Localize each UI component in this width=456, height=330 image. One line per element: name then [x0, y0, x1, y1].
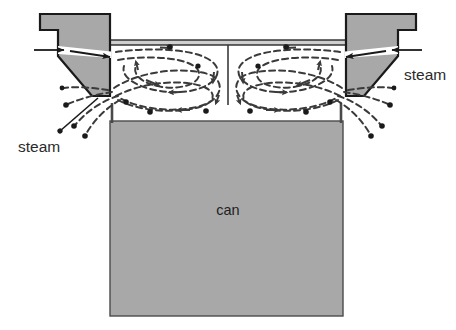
flow-node: [167, 44, 173, 50]
can-label: can: [216, 202, 239, 218]
right-vortex-flow: [236, 49, 342, 110]
flow-node: [247, 108, 253, 114]
plume-node: [63, 102, 69, 108]
flow-node: [147, 109, 153, 115]
can-body: [110, 121, 343, 316]
flow-line: [116, 82, 213, 110]
steam-left-label-group: steam: [18, 98, 98, 155]
plume-node: [387, 102, 393, 108]
flow-arrow: [242, 72, 243, 82]
flow-arrow: [276, 92, 286, 93]
flow-node: [195, 63, 200, 68]
top-plate: [110, 40, 346, 45]
plume-node: [368, 133, 374, 139]
plume-node: [60, 86, 65, 91]
plume-node: [71, 123, 77, 129]
can-group: can: [110, 103, 343, 316]
steam-right-label: steam: [404, 66, 446, 83]
flow-node: [283, 44, 289, 50]
flow-node: [327, 99, 333, 105]
flow-node: [303, 109, 309, 115]
left-plume-markers: [60, 86, 88, 139]
flow-node: [203, 108, 209, 114]
diagram-canvas: can: [0, 0, 456, 330]
steam-can-diagram: can: [0, 0, 456, 330]
steam-right-label-group: steam: [404, 66, 446, 83]
flow-arrow: [213, 72, 214, 82]
flow-arrow: [318, 62, 320, 70]
flow-arrow: [170, 92, 180, 93]
plume-node: [82, 133, 88, 139]
plume-node: [379, 123, 385, 129]
steam-left-label: steam: [18, 138, 60, 155]
plume-node: [392, 86, 397, 91]
flow-node: [255, 63, 260, 68]
flow-line: [243, 82, 340, 110]
left-vortex-flow: [114, 49, 220, 110]
flow-arrow: [136, 62, 138, 70]
flow-node: [123, 99, 129, 105]
right-plume-markers: [368, 86, 396, 139]
